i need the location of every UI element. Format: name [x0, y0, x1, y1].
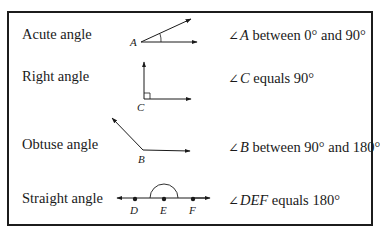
point-label-e: E [159, 204, 167, 216]
straight-angle-figure: D E F [117, 184, 210, 216]
vertex-label-b: B [138, 153, 145, 165]
point-label-f: F [188, 204, 196, 216]
vertex-label-c: C [137, 101, 145, 113]
right-angle-figure: C [137, 62, 191, 113]
obtuse-angle-figure: B [112, 118, 190, 165]
vertex-label-a: A [129, 36, 137, 48]
point-label-d: D [129, 204, 138, 216]
acute-angle-figure: A [129, 19, 197, 48]
